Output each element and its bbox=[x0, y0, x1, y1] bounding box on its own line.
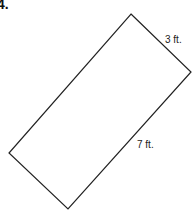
short-side-label: 3 ft. bbox=[165, 34, 182, 45]
long-side-label: 7 ft. bbox=[137, 139, 154, 150]
rotated-rectangle bbox=[0, 0, 196, 213]
